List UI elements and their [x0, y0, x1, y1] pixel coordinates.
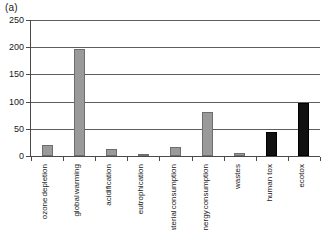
- x-tick-mark-3: [127, 157, 128, 161]
- y-tick-label-0: 0: [2, 152, 24, 161]
- x-label-eutrophication: eutrophication: [136, 164, 150, 228]
- bar-acidification: [106, 149, 117, 156]
- x-tick-mark-6: [224, 157, 225, 161]
- x-label-line: warming: [72, 164, 81, 194]
- x-label-line: depletion: [40, 164, 49, 196]
- x-label-human-tox: human tox: [265, 164, 279, 228]
- y-tick-label-100: 100: [2, 98, 24, 107]
- bar-eutrophication: [138, 154, 149, 156]
- y-tick-label-50: 50: [2, 125, 24, 134]
- bar-human-tox: [266, 132, 277, 156]
- x-label-global-warming: globalwarming: [72, 164, 86, 228]
- x-label-line: consumption: [201, 164, 210, 209]
- x-label-line: ecotox: [297, 164, 306, 188]
- y-tick-label-150: 150: [2, 70, 24, 79]
- x-label-line: global: [72, 195, 81, 216]
- x-label-line: eutrophication: [136, 164, 145, 214]
- x-tick-mark-1: [63, 157, 64, 161]
- bar-ecotox: [298, 103, 309, 156]
- gridline-250: [31, 20, 320, 21]
- x-label-energy-consumption: energyconsumption: [201, 164, 215, 228]
- x-tick-mark-0: [31, 157, 32, 161]
- bar-global-warming: [74, 49, 85, 156]
- x-label-wastes: wastes: [233, 164, 247, 228]
- gridline-200: [31, 47, 320, 48]
- panel-label: (a): [5, 2, 18, 14]
- bar-wastes: [234, 153, 245, 156]
- figure-panel-a: (a) 050100150200250 ozonedepletionglobal…: [0, 0, 332, 230]
- x-tick-mark-7: [256, 157, 257, 161]
- x-label-line: ozone: [40, 197, 49, 219]
- x-tick-mark-8: [288, 157, 289, 161]
- x-label-ozone-depletion: ozonedepletion: [40, 164, 54, 228]
- x-label-raw-material-consumption: raw materialconsumption: [169, 164, 183, 228]
- x-tick-mark-5: [192, 157, 193, 161]
- y-tick-label-250: 250: [2, 16, 24, 25]
- x-tick-mark-end: [320, 157, 321, 161]
- x-label-line: consumption: [169, 164, 178, 209]
- x-label-ecotox: ecotox: [297, 164, 311, 228]
- x-label-line: raw material: [169, 210, 178, 230]
- bar-raw-material-consumption: [170, 147, 181, 156]
- plot-area: [31, 20, 320, 156]
- x-label-line: wastes: [233, 164, 242, 189]
- gridline-0: [31, 156, 320, 157]
- y-tick-label-200: 200: [2, 43, 24, 52]
- x-label-line: human tox: [265, 164, 274, 201]
- bar-ozone-depletion: [42, 145, 53, 156]
- x-tick-mark-4: [159, 157, 160, 161]
- x-tick-mark-2: [95, 157, 96, 161]
- x-label-line: energy: [201, 210, 210, 230]
- bar-energy-consumption: [202, 112, 213, 156]
- x-label-line: acidification: [104, 164, 113, 206]
- x-label-acidification: acidification: [104, 164, 118, 228]
